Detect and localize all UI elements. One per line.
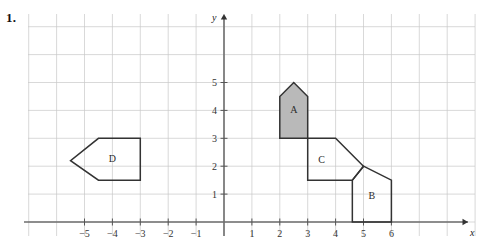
y-tick-label: 2 <box>212 161 217 172</box>
y-axis-arrowhead <box>221 14 227 20</box>
axis-ticks <box>85 83 392 226</box>
x-tick-label: 4 <box>333 228 338 239</box>
x-axis-label: x <box>469 227 475 238</box>
x-tick-label: 6 <box>389 228 394 239</box>
x-tick-label: −1 <box>191 228 202 239</box>
shape-label-b: B <box>369 190 376 201</box>
grid-lines <box>28 14 475 236</box>
y-tick-label: 1 <box>212 189 217 200</box>
x-tick-label: −3 <box>135 228 146 239</box>
shapes-layer: ABCD <box>71 83 392 223</box>
shape-label-a: A <box>290 104 298 115</box>
tick-labels: −5−4−3−2−112345612345 <box>79 77 394 239</box>
x-tick-label: 3 <box>305 228 310 239</box>
shape-polygon-d[interactable] <box>71 138 141 180</box>
worksheet-page: 1. ABCD −5−4−3−2−112345612345 xy <box>0 0 496 241</box>
y-tick-label: 5 <box>212 77 217 88</box>
shape-label-d: D <box>109 153 116 164</box>
axis-names: xy <box>211 12 475 238</box>
x-tick-label: 1 <box>249 228 254 239</box>
y-axis-label: y <box>211 12 217 23</box>
x-tick-label: −5 <box>79 228 90 239</box>
x-tick-label: 2 <box>277 228 282 239</box>
x-axis-arrowhead <box>463 219 469 225</box>
x-tick-label: −4 <box>107 228 118 239</box>
shape-label-c: C <box>318 154 325 165</box>
coordinate-plane: ABCD −5−4−3−2−112345612345 xy <box>0 0 496 241</box>
x-tick-label: 5 <box>361 228 366 239</box>
y-tick-label: 4 <box>212 105 217 116</box>
axis-lines <box>24 14 468 236</box>
x-tick-label: −2 <box>163 228 174 239</box>
y-tick-label: 3 <box>212 133 217 144</box>
